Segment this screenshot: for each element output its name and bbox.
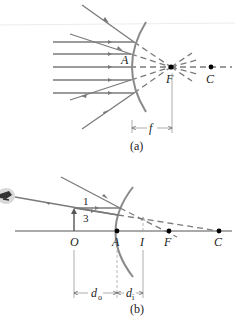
parallel-rays [53,40,134,95]
convex-mirror-diagram: A F C f (a) [0,0,235,327]
label-I: I [139,235,145,249]
ray-3-virtual-extension [118,215,219,231]
label-do: d [91,286,98,300]
label-F: F [165,72,174,86]
label-O: O [70,235,79,249]
eye-icon [0,188,15,204]
caption-a: (a) [130,139,143,153]
page-artifact-line [0,23,235,25]
label-ray-1: 1 [83,195,89,207]
label-f: f [149,121,154,135]
label-F-b: F [163,235,172,249]
ray-1-reflected [61,177,120,208]
label-C: C [206,72,215,86]
part-b-diagram: 1 3 O A I F C d o d i (b) [0,177,232,316]
part-a-diagram: A F C f (a) [53,5,232,153]
focal-point-dot [168,64,173,69]
focal-point-dot-b [167,229,172,234]
label-ray-3: 3 [83,212,89,224]
label-do-sub: o [98,293,102,302]
label-A-b: A [111,235,120,249]
label-C-b: C [214,235,223,249]
ray-3-reflected [15,197,118,215]
caption-b: (b) [130,302,144,316]
center-point-dot [209,65,214,70]
label-di-sub: i [132,293,135,302]
center-point-dot-b [217,229,222,234]
label-A: A [120,53,129,67]
vertex-dot [115,229,120,234]
virtual-ray-extensions [130,42,232,93]
